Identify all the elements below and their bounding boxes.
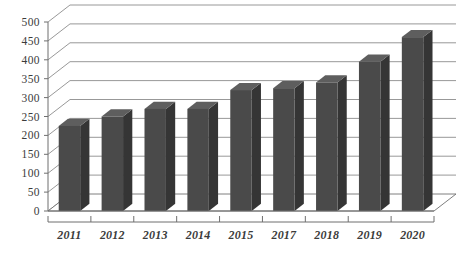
bar-2013	[145, 102, 176, 211]
y-tick-label: 400	[22, 54, 40, 66]
y-tick-label: 50	[28, 186, 40, 198]
y-tick-label: 300	[22, 92, 40, 104]
bar-2018	[316, 75, 347, 211]
x-tick-label-2012: 2012	[99, 228, 125, 242]
y-tick-label: 200	[22, 129, 40, 141]
bar-2011	[59, 119, 90, 211]
y-tick-label: 350	[22, 73, 40, 85]
chart-canvas: 050100150200250300350400450500 201120122…	[0, 0, 461, 254]
bar-chart: 050100150200250300350400450500 201120122…	[0, 0, 461, 254]
y-tick-label: 100	[22, 167, 40, 179]
bar-2012	[102, 109, 133, 211]
y-tick-label: 500	[22, 16, 40, 28]
bar-2019	[359, 55, 390, 211]
x-tick-label-2013: 2013	[142, 228, 168, 242]
x-tick-label-2017: 2017	[270, 228, 297, 242]
y-tick-label: 250	[22, 111, 40, 123]
x-tick-label-2015: 2015	[228, 228, 254, 242]
x-tick-label-2014: 2014	[185, 228, 211, 242]
bar-2017	[273, 81, 304, 211]
y-tick-label: 150	[22, 148, 40, 160]
bar-2014	[187, 102, 218, 211]
x-tick-label-2020: 2020	[399, 228, 425, 242]
x-tick-label-2019: 2019	[356, 228, 382, 242]
y-tick-label: 450	[22, 35, 40, 47]
x-tick-label-2011: 2011	[56, 228, 81, 242]
bar-2020	[402, 30, 433, 211]
y-tick-label: 0	[34, 205, 40, 217]
x-tick-label-2018: 2018	[313, 228, 339, 242]
bar-2015	[230, 83, 261, 211]
